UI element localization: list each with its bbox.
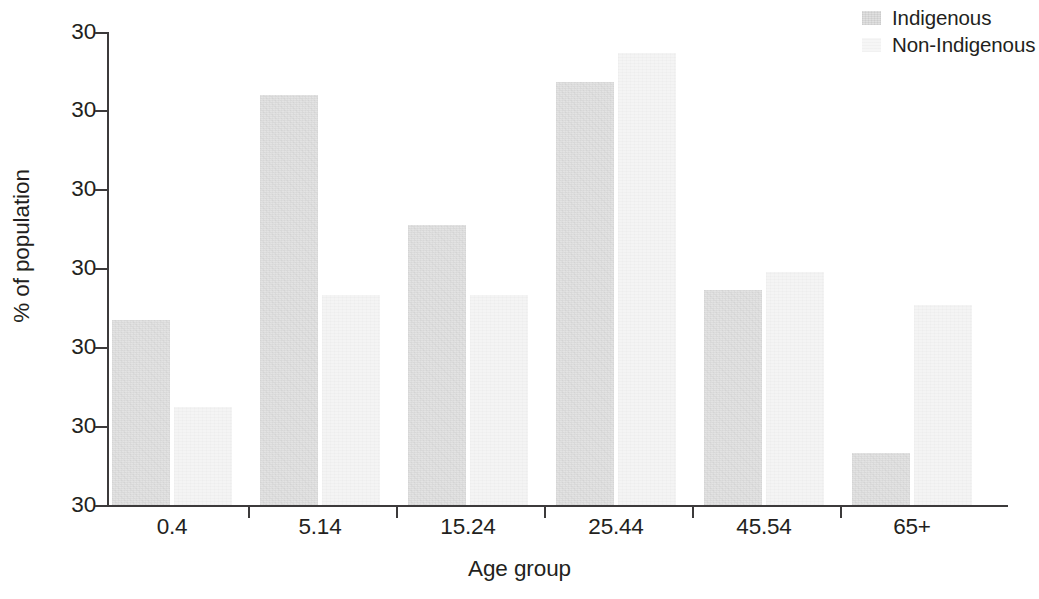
x-tick-label: 0.4 <box>157 514 188 540</box>
y-tick-label: 30 <box>34 176 96 202</box>
y-axis-tick <box>95 347 108 349</box>
x-tick-label: 25.44 <box>588 514 643 540</box>
x-axis-tick <box>692 505 694 518</box>
x-tick-label: 65+ <box>893 514 931 540</box>
x-axis-title: Age group <box>0 556 1039 582</box>
y-tick-label: 30 <box>34 334 96 360</box>
y-tick-label: 30 <box>34 413 96 439</box>
bar-chart-figure: Indigenous Non-Indigenous 30 30 30 30 30… <box>0 0 1039 599</box>
y-axis-tick <box>95 426 108 428</box>
x-axis-tick <box>840 505 842 518</box>
y-tick-label: 30 <box>34 492 96 518</box>
y-tick-label: 30 <box>34 255 96 281</box>
bar-non-indigenous-0-4 <box>174 407 232 505</box>
bar-non-indigenous-45-54 <box>766 272 824 505</box>
bar-non-indigenous-5-14 <box>322 295 380 505</box>
y-axis-title: % of population <box>9 106 35 386</box>
y-tick-label: 30 <box>34 19 96 45</box>
bar-indigenous-65-plus <box>852 453 910 505</box>
y-tick-label: 30 <box>34 97 96 123</box>
legend-swatch-indigenous <box>862 11 881 25</box>
y-axis-tick <box>95 110 108 112</box>
y-axis-tick <box>95 268 108 270</box>
legend-item-indigenous: Indigenous <box>862 4 1038 31</box>
x-axis-tick <box>396 505 398 518</box>
x-tick-label: 45.54 <box>736 514 791 540</box>
x-tick-label: 5.14 <box>299 514 342 540</box>
x-tick-label: 15.24 <box>440 514 495 540</box>
y-axis-tick <box>95 505 108 507</box>
bar-indigenous-45-54 <box>704 290 762 505</box>
bar-non-indigenous-25-44 <box>618 53 676 505</box>
x-axis-line <box>107 505 1008 507</box>
y-axis-tick <box>95 32 108 34</box>
x-axis-tick <box>544 505 546 518</box>
bar-indigenous-0-4 <box>112 320 170 505</box>
bar-non-indigenous-15-24 <box>470 295 528 505</box>
bar-indigenous-25-44 <box>556 82 614 505</box>
x-axis-tick <box>248 505 250 518</box>
bar-indigenous-5-14 <box>260 95 318 505</box>
y-axis-tick <box>95 189 108 191</box>
legend-label-indigenous: Indigenous <box>892 6 991 30</box>
plot-area <box>108 32 1008 505</box>
bar-indigenous-15-24 <box>408 225 466 505</box>
bar-non-indigenous-65-plus <box>914 305 972 505</box>
